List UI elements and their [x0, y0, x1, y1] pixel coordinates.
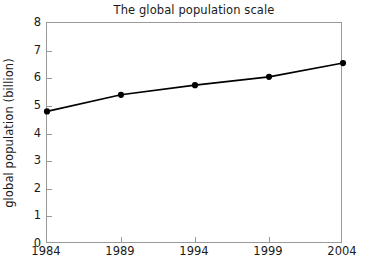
y-axis-tick-label: 8 — [0, 16, 41, 28]
data-point-marker: 1994: 5.75 — [192, 82, 198, 88]
y-axis-tick-label: 3 — [0, 154, 41, 166]
y-axis-tick-label: 6 — [0, 71, 41, 83]
data-point-marker: 2004: 6.55 — [340, 60, 346, 66]
plot-area: 1984: 4.81989: 5.41994: 5.751999: 6.0520… — [46, 22, 342, 243]
y-axis-tick-label: 2 — [0, 182, 41, 194]
x-axis-tick-label: 1999 — [238, 245, 298, 258]
data-point-marker: 1989: 5.4 — [118, 92, 124, 98]
data-point-marker: 1999: 6.05 — [266, 74, 272, 80]
y-axis-tick-label: 7 — [0, 44, 41, 56]
x-axis-tick-label: 1984 — [16, 245, 76, 258]
y-axis-tick-label: 1 — [0, 209, 41, 221]
data-point-marker: 1984: 4.8 — [44, 108, 50, 114]
x-axis-tick-label: 1994 — [164, 245, 224, 258]
x-axis-tick-label: 2004 — [312, 245, 368, 258]
population-line-chart: The global population scale global popul… — [0, 0, 368, 270]
y-axis-tick-label: 4 — [0, 127, 41, 139]
y-axis-tick-label: 5 — [0, 99, 41, 111]
data-series-layer: 1984: 4.81989: 5.41994: 5.751999: 6.0520… — [47, 23, 343, 244]
x-axis-tick-label: 1989 — [90, 245, 150, 258]
